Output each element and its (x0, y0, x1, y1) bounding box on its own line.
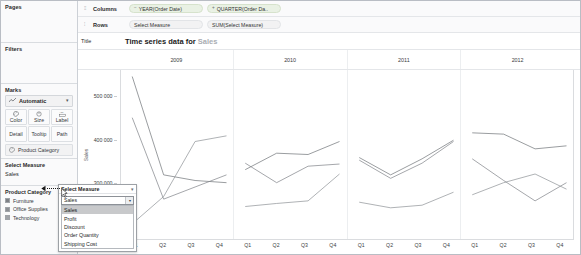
marks-card: Marks Automatic ▾ Color (1, 84, 77, 159)
x-axis-group-2012: Q1 Q2 Q3 Q4 (461, 240, 575, 254)
pages-shelf[interactable]: Pages (1, 1, 77, 43)
marks-tooltip-button[interactable]: Tooltip (28, 126, 50, 142)
chevron-down-icon: ▾ (66, 99, 69, 104)
select-measure-popup: Select Measure ▾ Sales ▾ Sales Profit Di… (58, 184, 137, 252)
marks-color-pill-product-category[interactable]: Product Category (5, 144, 73, 156)
x-axis-tick: Q4 (546, 240, 574, 254)
measure-option-sales[interactable]: Sales (62, 206, 133, 214)
rows-shelf-label: Rows (93, 22, 125, 28)
x-axis-tick: Q3 (177, 240, 205, 254)
x-axis-tick: Q4 (432, 240, 460, 254)
worksheet-main: ⫶⫶ Columns − YEAR(Order Date) + QUARTER(… (78, 1, 580, 254)
panel-2009[interactable] (121, 70, 233, 239)
x-axis-tick: Q2 (489, 240, 517, 254)
year-header-2009[interactable]: 2009 (120, 50, 233, 69)
measure-option-shipping-cost[interactable]: Shipping Cost (62, 240, 133, 248)
columns-shelf-label: Columns (93, 6, 125, 12)
x-axis-tick: Q4 (319, 240, 347, 254)
series-line-office-supplies (245, 163, 339, 183)
parameter-value[interactable]: Sales (5, 171, 73, 177)
pill-year-order-date[interactable]: − YEAR(Order Date) (129, 4, 203, 13)
marks-size-label: Size (34, 117, 44, 123)
marks-pill-label: Product Category (18, 147, 59, 153)
x-axis-tick: Q3 (290, 240, 318, 254)
panel-2010[interactable] (233, 70, 346, 239)
x-axis-tick: Q3 (517, 240, 545, 254)
plus-icon[interactable]: + (212, 6, 215, 11)
marks-label-button[interactable]: Abc Label (51, 109, 73, 125)
series-line-technology (132, 136, 226, 224)
legend-item-label: Furniture (13, 198, 34, 204)
panel-2012[interactable] (460, 70, 573, 239)
minus-icon[interactable]: − (134, 6, 137, 11)
viz-title-prefix: Time series data for (125, 37, 198, 46)
legend-swatch (5, 207, 10, 212)
measure-option-profit[interactable]: Profit (62, 214, 133, 222)
marks-type-label: Automatic (19, 98, 63, 104)
line-chart-icon (9, 98, 16, 104)
page-title[interactable]: Time series data for Sales (125, 37, 217, 46)
title-shelf-label: Title (81, 38, 121, 44)
marks-detail-label: Detail (9, 131, 22, 137)
tableau-worksheet-window: Pages Filters Marks Automatic ▾ Color (0, 0, 581, 255)
viz-title-measure: Sales (198, 37, 218, 46)
filters-shelf-label: Filters (5, 46, 73, 52)
series-line-technology (359, 192, 453, 208)
pill-label: QUARTER(Order Da.. (217, 6, 268, 12)
legend-item-label: Office Supplies (13, 206, 48, 212)
pill-sum-select-measure[interactable]: SUM(Select Measure) (207, 20, 281, 29)
y-axis-tick: 400 000 (94, 137, 117, 143)
measure-option-discount[interactable]: Discount (62, 223, 133, 231)
chevron-down-icon[interactable]: ▾ (131, 187, 134, 192)
panel-2011[interactable] (347, 70, 460, 239)
title-row: Title Time series data for Sales (78, 33, 580, 50)
rows-shelf[interactable]: ⫶ Rows Select Measure SUM(Select Measure… (78, 17, 580, 33)
parameter-control-select-measure: Select Measure Sales (1, 159, 77, 186)
x-axis-tick: Q2 (148, 240, 176, 254)
marks-path-button[interactable]: Path (51, 126, 73, 142)
year-header-2012[interactable]: 2012 (460, 50, 574, 69)
pill-select-measure[interactable]: Select Measure (129, 20, 203, 29)
year-header-band: 2009 2010 2011 2012 (78, 50, 580, 70)
marks-size-button[interactable]: Size (28, 109, 50, 125)
year-header-2010[interactable]: 2010 (233, 50, 347, 69)
parameter-title: Select Measure (5, 162, 73, 168)
x-axis-group-2009: Q1 Q2 Q3 Q4 (120, 240, 234, 254)
legend-swatch (5, 215, 10, 220)
measure-option-order-quantity[interactable]: Order Quantity (62, 231, 133, 239)
x-axis-tick: Q1 (234, 240, 262, 254)
filters-shelf[interactable]: Filters (1, 43, 77, 84)
series-line-technology (245, 174, 339, 206)
x-axis-group-2011: Q1 Q2 Q3 Q4 (347, 240, 461, 254)
popup-title: Select Measure (61, 186, 131, 192)
panel-container (120, 70, 574, 240)
legend-item-label: Technology (13, 215, 39, 221)
series-line-furniture (359, 140, 453, 175)
columns-shelf[interactable]: ⫶⫶ Columns − YEAR(Order Date) + QUARTER(… (78, 1, 580, 17)
series-line-office-supplies (132, 118, 226, 199)
marks-detail-button[interactable]: Detail (5, 126, 27, 142)
pages-shelf-label: Pages (5, 4, 73, 10)
series-line-furniture (472, 133, 566, 149)
series-line-technology (472, 174, 566, 195)
x-axis-group-2010: Q1 Q2 Q3 Q4 (234, 240, 348, 254)
series-line-furniture (132, 77, 226, 183)
x-axis: Q1 Q2 Q3 Q4 Q1 Q2 Q3 Q4 Q1 Q2 Q3 Q4 Q1 Q… (78, 240, 580, 254)
popup-header: Select Measure ▾ (59, 185, 136, 194)
plot-area: Sales 500 000 400 000 300 000 200 000 (78, 70, 580, 240)
x-axis-tick: Q3 (404, 240, 432, 254)
pill-label: Select Measure (134, 22, 170, 28)
rows-icon: ⫶ (81, 21, 89, 28)
pill-quarter-order-date[interactable]: + QUARTER(Order Da.. (207, 4, 281, 13)
series-line-furniture (245, 142, 339, 170)
measure-combobox[interactable]: Sales ▾ (61, 196, 134, 205)
columns-icon: ⫶⫶ (81, 5, 89, 12)
chevron-down-icon[interactable]: ▾ (125, 197, 133, 204)
year-header-2011[interactable]: 2011 (347, 50, 461, 69)
svg-text:Abc: Abc (59, 111, 64, 113)
measure-option-list: Sales Profit Discount Order Quantity Shi… (61, 205, 134, 249)
series-line-office-supplies (359, 142, 453, 179)
marks-color-button[interactable]: Color (5, 109, 27, 125)
marks-tooltip-label: Tooltip (32, 131, 47, 137)
marks-type-selector[interactable]: Automatic ▾ (5, 95, 73, 107)
